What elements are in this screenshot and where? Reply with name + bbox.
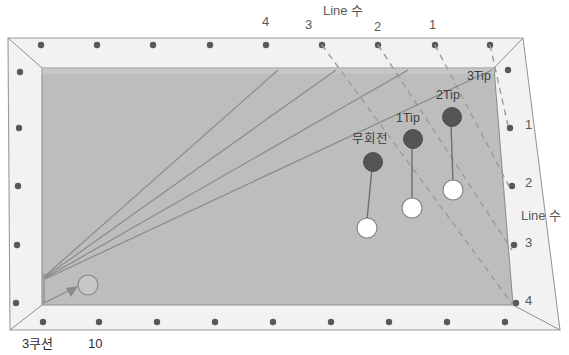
diamond-left-5	[13, 300, 19, 306]
diamond-left-3	[15, 183, 21, 189]
diamond-top-2	[94, 42, 100, 48]
right-axis-title: Line 수	[521, 209, 561, 222]
top-scale-label-1: 1	[429, 18, 436, 31]
diamond-left-4	[14, 242, 20, 248]
shot-label-3tip: 3Tip	[467, 70, 491, 83]
diamond-right-5	[513, 300, 519, 306]
billiard-table-svg	[0, 0, 569, 355]
cue-ball-nospin[interactable]	[357, 218, 377, 238]
top-scale-label-4: 4	[262, 15, 269, 28]
top-axis-title: Line 수	[323, 4, 363, 17]
cue-ball-1tip[interactable]	[402, 198, 422, 218]
diamond-left-1	[17, 69, 23, 75]
diamond-top-5	[263, 42, 269, 48]
diamond-bottom-8	[444, 319, 450, 325]
right-scale-label-3: 3	[525, 236, 532, 249]
cue-ball-2tip[interactable]	[443, 180, 463, 200]
right-scale-label-2: 2	[525, 176, 532, 189]
diamond-bottom-2	[96, 319, 102, 325]
diamond-right-3	[509, 183, 515, 189]
diamond-top-1	[38, 42, 44, 48]
top-scale-label-2: 2	[374, 20, 381, 33]
bottom-value-label: 10	[88, 337, 102, 350]
diamond-bottom-7	[386, 319, 392, 325]
right-scale-label-4: 4	[525, 294, 532, 307]
shot-label-nospin: 무회전	[352, 133, 388, 146]
shot-label-2tip: 2Tip	[436, 89, 460, 102]
object-ball-nospin[interactable]	[364, 153, 383, 172]
diamond-right-4	[511, 242, 517, 248]
diamond-left-2	[16, 125, 22, 131]
diamond-top-4	[207, 42, 213, 48]
shot-label-1tip: 1Tip	[396, 112, 420, 125]
cue-ball-start[interactable]	[78, 275, 98, 295]
playing-surface	[42, 68, 513, 305]
diamond-bottom-9	[502, 319, 508, 325]
diamond-bottom-5	[270, 319, 276, 325]
diamond-bottom-4	[212, 319, 218, 325]
object-ball-1tip[interactable]	[404, 130, 423, 149]
diamond-bottom-3	[154, 319, 160, 325]
diamond-bottom-6	[328, 319, 334, 325]
rail-shade-top	[42, 68, 494, 74]
diamond-bottom-1	[40, 319, 46, 325]
diamond-right-1	[505, 67, 511, 73]
bottom-left-label: 3쿠션	[22, 337, 53, 350]
object-ball-2tip[interactable]	[443, 108, 462, 127]
top-scale-label-3: 3	[305, 18, 312, 31]
billiard-diagram-stage: 4 3 2 1 Line 수 1 2 3 4 Line 수 무회전 1Tip 2…	[0, 0, 569, 355]
right-scale-label-1: 1	[525, 118, 532, 131]
diamond-top-3	[150, 42, 156, 48]
